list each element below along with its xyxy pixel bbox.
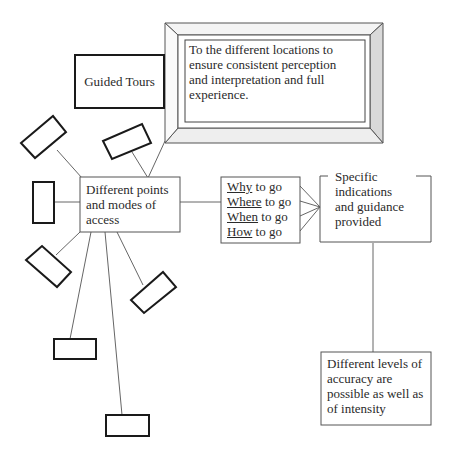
frame-note-line: ensure consistent perception — [189, 57, 369, 72]
blank-rect-5 — [131, 272, 176, 313]
blank-rect-6 — [54, 339, 96, 359]
accuracy-line: possible as well as — [327, 386, 432, 401]
guidance-line: indications — [335, 184, 430, 199]
accuracy-line: accuracy are — [327, 371, 432, 386]
blank-rect-2 — [103, 124, 151, 159]
question-how: How to go — [227, 224, 302, 239]
blank-rect-1 — [21, 116, 66, 158]
guidance-line: provided — [335, 214, 430, 229]
question-when: When to go — [227, 209, 302, 224]
blank-rect-7 — [106, 415, 149, 436]
blank-rect-3 — [33, 182, 54, 223]
questions-list: Why to go Where to go When to go How to … — [227, 179, 302, 239]
frame-note-text: To the different locations to ensure con… — [189, 42, 369, 102]
accuracy-text: Different levels of accuracy are possibl… — [327, 356, 432, 416]
blank-rectangles — [21, 116, 176, 436]
guided-tours-label: Guided Tours — [75, 74, 164, 89]
blank-rect-4 — [26, 246, 71, 287]
guidance-text: Specific indications and guidance provid… — [335, 169, 430, 229]
accuracy-line: of intensity — [327, 401, 432, 416]
question-why: Why to go — [227, 179, 302, 194]
frame-note-line: To the different locations to — [189, 42, 369, 57]
question-where: Where to go — [227, 194, 302, 209]
frame-note-line: and interpretation and full — [189, 72, 369, 87]
access-line: access — [86, 212, 181, 227]
guidance-line: Specific — [335, 169, 430, 184]
access-line: Different points — [86, 182, 181, 197]
access-points-text: Different points and modes of access — [86, 182, 181, 227]
frame-note-line: experience. — [189, 87, 369, 102]
access-line: and modes of — [86, 197, 181, 212]
guidance-line: and guidance — [335, 199, 430, 214]
accuracy-line: Different levels of — [327, 356, 432, 371]
